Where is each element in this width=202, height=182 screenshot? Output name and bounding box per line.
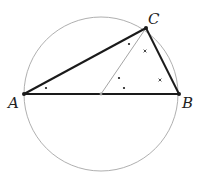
angle-dot-mark — [128, 43, 130, 45]
angle-dot-mark — [45, 87, 47, 89]
angle-cross-mark — [144, 50, 147, 53]
side-bc — [146, 28, 179, 94]
geometry-diagram — [0, 0, 202, 182]
label-b: B — [182, 96, 193, 111]
angle-dot-mark — [118, 77, 120, 79]
angle-marks — [45, 43, 161, 89]
side-ac — [24, 28, 146, 94]
vertex-a — [22, 92, 26, 96]
segment-oc — [101, 28, 146, 94]
label-a: A — [8, 96, 19, 111]
vertex-b — [177, 92, 181, 96]
vertex-points — [22, 26, 181, 96]
label-c: C — [148, 12, 159, 27]
vertex-o — [100, 93, 103, 96]
angle-cross-mark — [159, 79, 162, 82]
angle-dot-mark — [123, 87, 125, 89]
